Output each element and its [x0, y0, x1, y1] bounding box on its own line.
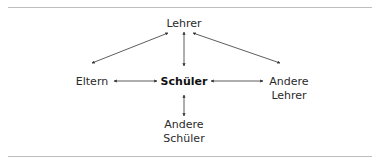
node-label-line1: Andere [158, 118, 210, 132]
node-label: Schüler [161, 75, 208, 88]
node-schueler: Schüler [158, 75, 210, 89]
node-label: Lehrer [166, 17, 201, 30]
node-label-line2: Lehrer [264, 89, 314, 103]
node-eltern: Eltern [70, 75, 114, 89]
node-label: Eltern [76, 75, 108, 88]
edge-lehrer-andere-lehrer [193, 33, 280, 63]
node-lehrer: Lehrer [160, 17, 208, 31]
node-label-line1: Andere [264, 75, 314, 89]
edge-lehrer-eltern [92, 33, 168, 63]
node-label-line2: Schüler [158, 132, 210, 146]
node-andere-lehrer: Andere Lehrer [264, 75, 314, 103]
node-andere-schueler: Andere Schüler [158, 118, 210, 146]
